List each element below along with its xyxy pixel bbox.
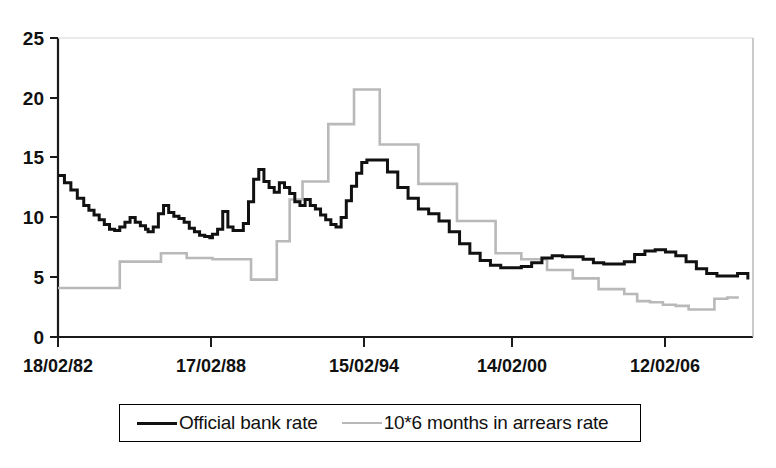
y-tick-label: 15: [23, 147, 45, 168]
x-tick-label: 18/02/82: [23, 356, 93, 376]
y-tick-label: 5: [33, 267, 44, 288]
legend-label: 10*6 months in arrears rate: [384, 412, 609, 434]
y-axis-ticks: [50, 38, 58, 337]
x-tick-label: 12/02/06: [630, 356, 700, 376]
chart-plot-area: 25 20 15 10 5 0 18/02/82 17/02/88 15/02/…: [0, 0, 776, 468]
y-tick-label: 10: [23, 207, 44, 228]
legend-swatch-icon: [137, 422, 177, 425]
y-tick-label: 20: [23, 88, 44, 109]
x-tick-label: 15/02/94: [329, 356, 399, 376]
legend-swatch-icon: [342, 422, 382, 424]
x-axis-ticks: [58, 337, 665, 347]
x-tick-label: 17/02/88: [176, 356, 246, 376]
chart-legend: Official bank rate 10*6 months in arrear…: [119, 404, 641, 442]
chart-figure: 25 20 15 10 5 0 18/02/82 17/02/88 15/02/…: [0, 0, 776, 468]
y-axis-labels: 25 20 15 10 5 0: [23, 28, 45, 348]
y-tick-label: 25: [23, 28, 45, 49]
series-line-arrears: [58, 89, 738, 309]
y-tick-label: 0: [33, 327, 44, 348]
legend-item-arrears-rate: 10*6 months in arrears rate: [342, 412, 609, 434]
x-axis-labels: 18/02/82 17/02/88 15/02/94 14/02/00 12/0…: [23, 356, 700, 376]
x-tick-label: 14/02/00: [477, 356, 547, 376]
legend-label: Official bank rate: [179, 412, 318, 434]
legend-item-official-bank-rate: Official bank rate: [137, 412, 318, 434]
